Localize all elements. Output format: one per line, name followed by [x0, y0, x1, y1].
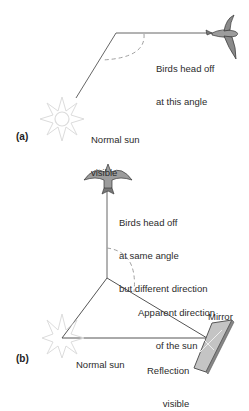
sun-caption-b: Normal sun: [76, 359, 125, 370]
caption-line: Normal sun: [91, 134, 140, 145]
caption-line: Reflection: [147, 365, 189, 376]
caption-line: at same angle: [119, 250, 208, 261]
caption-line: Birds head off: [119, 217, 208, 228]
sun-direction-line-a: [76, 33, 116, 98]
reflection-caption: Reflection visible: [147, 343, 189, 411]
caption-line: Birds head off: [156, 63, 214, 74]
panel-label-a: (a): [16, 131, 28, 142]
bird-caption-a: Birds head off at this angle: [156, 41, 214, 118]
caption-line: visible: [147, 398, 189, 409]
caption-line: visible: [91, 167, 140, 178]
caption-line: at this angle: [156, 96, 214, 107]
sun-caption-a: Normal sun visible: [91, 112, 140, 189]
panel-label-b: (b): [16, 353, 29, 364]
mirror-label: Mirror: [208, 311, 233, 322]
sun-icon: [40, 97, 84, 141]
caption-line: Apparent direction: [138, 307, 215, 318]
sun-direction-line-b: [62, 278, 107, 338]
angle-arc-a: [102, 34, 144, 60]
